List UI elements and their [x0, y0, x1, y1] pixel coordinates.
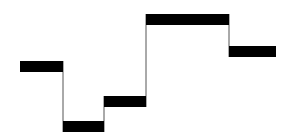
step-diagram [0, 0, 287, 140]
step-bar-2 [63, 121, 104, 132]
step-bar-4 [146, 14, 229, 25]
step-bars [20, 14, 276, 132]
step-bar-3 [104, 96, 146, 107]
step-bar-1 [20, 61, 63, 72]
connector-lines [63, 14, 229, 132]
step-bar-5 [229, 46, 276, 57]
